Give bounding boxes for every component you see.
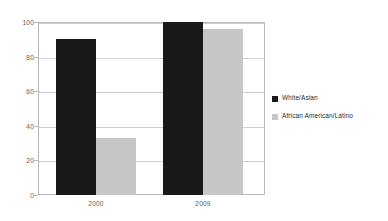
y-axis-label-60: 60 xyxy=(26,88,34,95)
bar-2000-white-asian xyxy=(56,39,96,195)
bar-2009-white-asian xyxy=(163,22,203,195)
x-axis-label-2009: 2009 xyxy=(195,200,210,207)
legend-swatch-icon-african-american-latino xyxy=(272,114,278,120)
legend-label-african-american-latino: African American/Latino xyxy=(282,113,353,120)
y-axis-label-40: 40 xyxy=(26,122,34,129)
x-axis-label-2000: 2000 xyxy=(88,200,103,207)
legend-label-white-asian: White/Asian xyxy=(282,95,318,102)
bar-2009-african-american-latino xyxy=(203,29,243,195)
y-axis: 100 80 60 40 20 0 xyxy=(10,22,34,195)
y-axis-label-100: 100 xyxy=(23,19,34,26)
x-axis: 2000 2009 xyxy=(38,200,265,214)
chart-legend: White/Asian African American/Latino xyxy=(272,94,384,130)
bar-2000-african-american-latino xyxy=(96,138,136,195)
y-axis-label-0: 0 xyxy=(30,192,34,199)
y-tickmark-0 xyxy=(34,195,38,196)
legend-item-white-asian: White/Asian xyxy=(272,94,384,103)
bars-layer xyxy=(38,22,265,195)
y-axis-label-80: 80 xyxy=(26,53,34,60)
legend-item-african-american-latino: African American/Latino xyxy=(272,112,384,121)
y-axis-label-20: 20 xyxy=(26,157,34,164)
bar-chart: 100 80 60 40 20 0 2000 2009 White/Asian … xyxy=(0,0,388,221)
legend-swatch-icon-white-asian xyxy=(272,96,278,102)
